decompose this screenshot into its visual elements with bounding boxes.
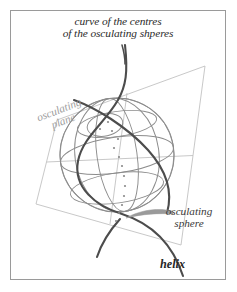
figure-graphics (0, 0, 237, 292)
centre-dot (99, 128, 101, 130)
label-curve-of-centres: curve of the centres of the osculating s… (28, 15, 208, 40)
centre-dot (121, 165, 123, 167)
centre-dot (123, 195, 125, 197)
centre-dot (118, 156, 120, 158)
centre-dot (113, 147, 115, 149)
figure-canvas: curve of the centres of the osculating s… (0, 0, 237, 292)
label-osculating-sphere: osculating sphere (148, 205, 230, 229)
centre-dot (107, 121, 109, 123)
centre-dot (111, 130, 113, 132)
centre-dot (123, 175, 125, 177)
centre-dot (117, 138, 119, 140)
centre-dot (121, 204, 123, 206)
centre-dot (124, 185, 126, 187)
centre-dot (118, 212, 120, 214)
label-helix: helix (160, 258, 216, 271)
centre-dot (115, 220, 117, 222)
